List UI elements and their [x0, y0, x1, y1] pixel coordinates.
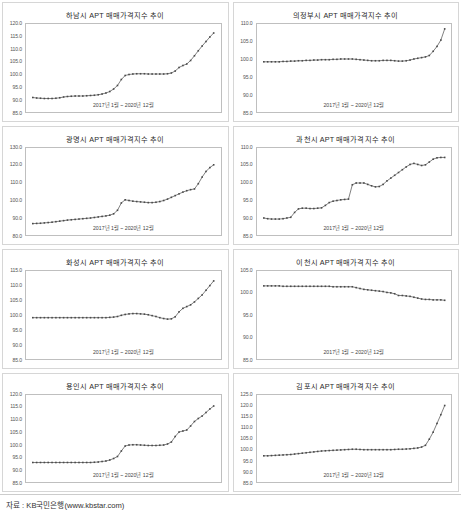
y-tick-label: 100.0: [240, 446, 252, 452]
y-tick-label: 120.0: [10, 161, 22, 167]
y-tick-label: 95.0: [243, 74, 253, 80]
x-axis-caption: 2017년 1월 ~ 2020년 12월: [25, 224, 222, 231]
y-tick-label: 90.0: [243, 215, 253, 221]
y-tick-label: 105.0: [240, 161, 252, 167]
y-tick-label: 115.0: [241, 413, 253, 419]
y-tick-label: 90.0: [12, 467, 22, 473]
plot-area: 130.0120.0110.0100.090.080.0 2017년 1월 ~ …: [25, 147, 222, 237]
y-tick-label: 110.0: [10, 179, 22, 185]
y-axis: 120.0115.0110.0105.0100.095.090.085.0: [3, 394, 24, 484]
y-axis: 110.0105.0100.095.090.085.0: [234, 23, 255, 113]
chart-panel-3: 과천시 APT 매매가격지수 추이 110.0105.0100.095.090.…: [233, 126, 460, 246]
y-tick-label: 110.0: [241, 20, 253, 26]
x-axis-caption: 2017년 1월 ~ 2020년 12월: [256, 471, 453, 478]
plot-frame: [25, 270, 222, 360]
y-tick-label: 110.0: [10, 46, 22, 52]
plot-area: 120.0115.0110.0105.0100.095.090.085.0 20…: [25, 394, 222, 484]
y-tick-label: 110.0: [241, 144, 253, 150]
series-plot: [257, 395, 452, 483]
series-plot: [26, 148, 221, 236]
y-tick-label: 105.0: [10, 58, 22, 64]
y-tick-label: 100.0: [240, 179, 252, 185]
chart-panel-1: 의정부시 APT 매매가격지수 추이 110.0105.0100.095.090…: [233, 2, 460, 122]
chart-title: 화성시 APT 매매가격지수 추이: [3, 257, 228, 267]
plot-area: 120.0115.0110.0105.0100.095.090.085.0 20…: [25, 23, 222, 113]
y-tick-label: 125.0: [240, 391, 252, 397]
plot-area: 125.0120.0115.0110.0105.0100.095.090.085…: [256, 394, 453, 484]
x-axis-caption: 2017년 1월 ~ 2020년 12월: [25, 471, 222, 478]
series-plot: [26, 24, 221, 112]
y-tick-label: 105.0: [10, 297, 22, 303]
plot-area: 110.0105.0100.095.090.085.0 2017년 1월 ~ 2…: [256, 23, 453, 113]
plot-frame: [256, 270, 453, 360]
plot-frame: [25, 147, 222, 237]
x-axis-caption: 2017년 1월 ~ 2020년 12월: [25, 348, 222, 355]
y-tick-label: 110.0: [241, 424, 253, 430]
y-tick-label: 100.0: [10, 71, 22, 77]
chart-title: 하남시 APT 매매가격지수 추이: [3, 10, 228, 20]
chart-panel-5: 이천시 APT 매매가격지수 추이 105.0100.095.090.085.0…: [233, 249, 460, 369]
y-tick-label: 95.0: [12, 84, 22, 90]
chart-title: 김포시 APT 매매가격지수 추이: [234, 381, 459, 391]
plot-area: 110.0105.0100.095.090.085.0 2017년 1월 ~ 2…: [256, 147, 453, 237]
series-plot: [257, 148, 452, 236]
y-tick-label: 90.0: [12, 215, 22, 221]
y-tick-label: 130.0: [10, 144, 22, 150]
chart-panel-4: 화성시 APT 매매가격지수 추이 115.0110.0105.0100.095…: [2, 249, 229, 369]
y-tick-label: 115.0: [10, 267, 22, 273]
y-tick-label: 90.0: [243, 92, 253, 98]
chart-grid: 하남시 APT 매매가격지수 추이 120.0115.0110.0105.010…: [0, 0, 461, 494]
y-tick-label: 95.0: [12, 327, 22, 333]
y-tick-label: 95.0: [243, 312, 253, 318]
x-axis-caption: 2017년 1월 ~ 2020년 12월: [256, 101, 453, 108]
y-tick-label: 100.0: [240, 56, 252, 62]
y-tick-label: 85.0: [12, 480, 22, 486]
y-tick-label: 85.0: [12, 357, 22, 363]
chart-title: 광명시 APT 매매가격지수 추이: [3, 134, 228, 144]
chart-title: 용인시 APT 매매가격지수 추이: [3, 381, 228, 391]
series-plot: [26, 271, 221, 359]
y-axis: 110.0105.0100.095.090.085.0: [234, 147, 255, 237]
y-tick-label: 105.0: [240, 435, 252, 441]
plot-frame: [256, 23, 453, 113]
source-footer: 자료 : KB국민은행(www.kbstar.com): [0, 494, 461, 513]
y-tick-label: 105.0: [10, 429, 22, 435]
y-tick-label: 100.0: [240, 289, 252, 295]
y-tick-label: 100.0: [10, 442, 22, 448]
plot-area: 105.0100.095.090.085.0 2017년 1월 ~ 2020년 …: [256, 270, 453, 360]
series-plot: [257, 271, 452, 359]
chart-panel-7: 김포시 APT 매매가격지수 추이 125.0120.0115.0110.010…: [233, 373, 460, 493]
y-tick-label: 95.0: [243, 458, 253, 464]
plot-frame: [25, 23, 222, 113]
chart-panel-6: 용인시 APT 매매가격지수 추이 120.0115.0110.0105.010…: [2, 373, 229, 493]
y-axis: 120.0115.0110.0105.0100.095.090.085.0: [3, 23, 24, 113]
series-plot: [26, 395, 221, 483]
y-axis: 130.0120.0110.0100.090.080.0: [3, 147, 24, 237]
y-tick-label: 85.0: [243, 233, 253, 239]
y-tick-label: 120.0: [10, 20, 22, 26]
chart-page: 하남시 APT 매매가격지수 추이 120.0115.0110.0105.010…: [0, 0, 461, 513]
series-plot: [257, 24, 452, 112]
chart-title: 과천시 APT 매매가격지수 추이: [234, 134, 459, 144]
y-tick-label: 85.0: [12, 110, 22, 116]
y-tick-label: 90.0: [243, 334, 253, 340]
y-tick-label: 100.0: [10, 197, 22, 203]
y-axis: 125.0120.0115.0110.0105.0100.095.090.085…: [234, 394, 255, 484]
plot-frame: [25, 394, 222, 484]
chart-panel-0: 하남시 APT 매매가격지수 추이 120.0115.0110.0105.010…: [2, 2, 229, 122]
plot-frame: [256, 394, 453, 484]
chart-title: 의정부시 APT 매매가격지수 추이: [234, 10, 459, 20]
y-tick-label: 90.0: [12, 342, 22, 348]
y-tick-label: 90.0: [12, 97, 22, 103]
y-tick-label: 85.0: [243, 480, 253, 486]
y-tick-label: 120.0: [10, 391, 22, 397]
plot-frame: [256, 147, 453, 237]
chart-panel-2: 광명시 APT 매매가격지수 추이 130.0120.0110.0100.090…: [2, 126, 229, 246]
y-axis: 115.0110.0105.0100.095.090.085.0: [3, 270, 24, 360]
y-tick-label: 110.0: [10, 416, 22, 422]
y-axis: 105.0100.095.090.085.0: [234, 270, 255, 360]
y-tick-label: 115.0: [10, 403, 22, 409]
y-tick-label: 100.0: [10, 312, 22, 318]
y-tick-label: 90.0: [243, 469, 253, 475]
y-tick-label: 120.0: [240, 402, 252, 408]
